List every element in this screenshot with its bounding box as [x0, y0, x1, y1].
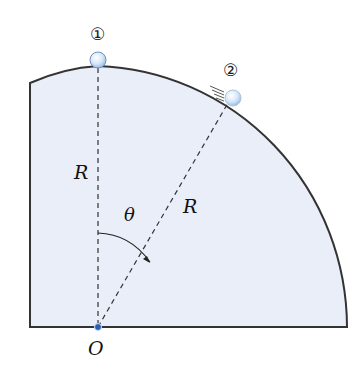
- angle-label: θ: [124, 204, 135, 225]
- radius-label-inclined: R: [182, 195, 197, 217]
- ball-1: [90, 52, 106, 68]
- radius-label-vertical: R: [73, 161, 88, 183]
- quarter-circle-diagram: ① ② R R θ O: [0, 0, 363, 365]
- origin-dot: [95, 324, 102, 331]
- ball-2: [225, 90, 241, 106]
- origin-label: O: [88, 337, 104, 359]
- ball-2-label: ②: [223, 60, 238, 80]
- ball-1-label: ①: [90, 24, 105, 44]
